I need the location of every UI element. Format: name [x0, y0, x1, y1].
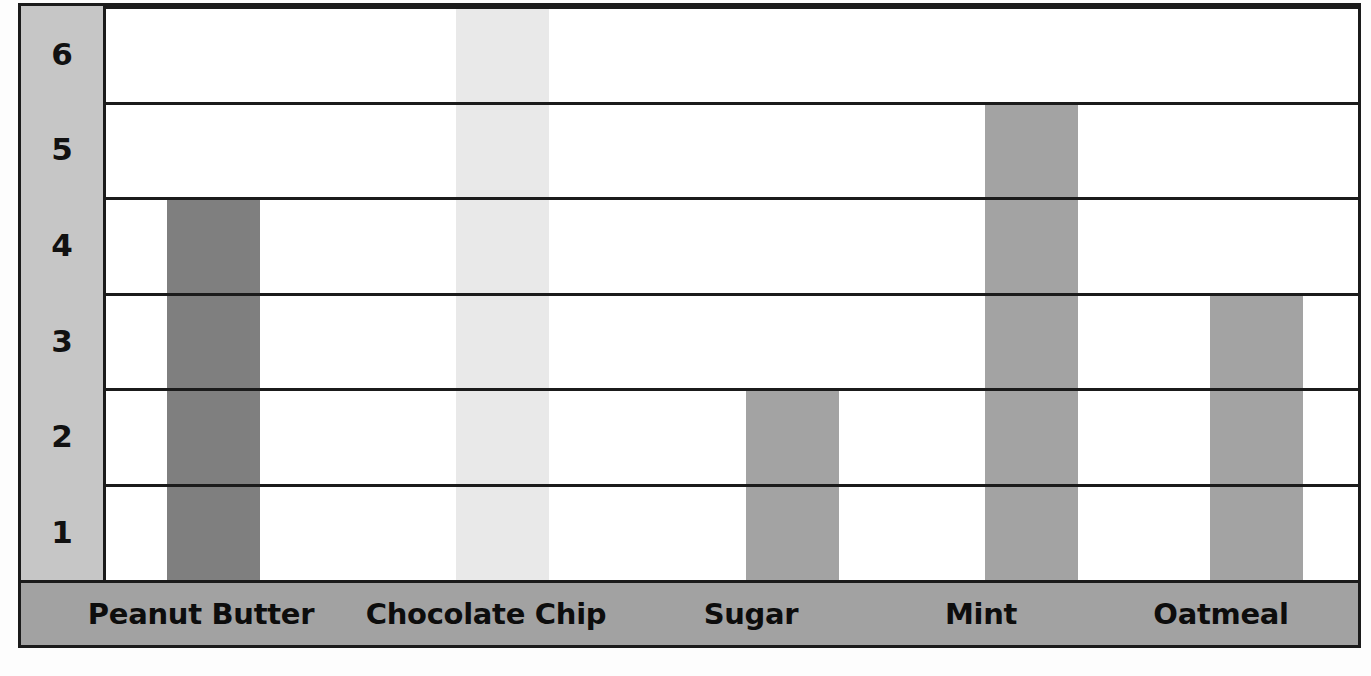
category-label-oatmeal: Oatmeal — [1126, 583, 1316, 645]
plot-area: 6 5 4 3 2 1 — [21, 6, 1358, 580]
category-label-sugar: Sugar — [671, 583, 831, 645]
gridline-5-4 — [21, 197, 1358, 200]
category-label-peanut-butter: Peanut Butter — [81, 583, 321, 645]
x-axis-category-bar: Peanut Butter Chocolate Chip Sugar Mint … — [21, 580, 1358, 645]
category-label-chocolate-chip: Chocolate Chip — [356, 583, 616, 645]
bar-mint[interactable] — [985, 102, 1078, 580]
gridline-top — [21, 6, 1358, 9]
gridline-3-2 — [21, 388, 1358, 391]
y-axis-tick-6: 6 — [21, 6, 103, 102]
bar-oatmeal[interactable] — [1210, 293, 1303, 580]
category-label-mint: Mint — [906, 583, 1056, 645]
scanned-page-background: 6 5 4 3 2 1 Peanut Butter Chocolate Chip… — [0, 0, 1371, 676]
y-axis: 6 5 4 3 2 1 — [21, 6, 106, 580]
gridline-2-1 — [21, 484, 1358, 487]
y-axis-tick-2: 2 — [21, 388, 103, 484]
y-axis-tick-5: 5 — [21, 102, 103, 198]
y-axis-tick-4: 4 — [21, 197, 103, 293]
y-axis-tick-3: 3 — [21, 293, 103, 389]
y-axis-tick-1: 1 — [21, 484, 103, 580]
gridline-6-5 — [21, 102, 1358, 105]
bar-chart: 6 5 4 3 2 1 Peanut Butter Chocolate Chip… — [18, 3, 1361, 648]
gridline-4-3 — [21, 293, 1358, 296]
